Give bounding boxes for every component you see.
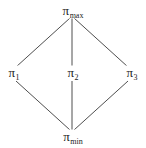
edge-max-p3 — [74, 18, 128, 67]
node-pi-min: πmin — [62, 130, 84, 145]
edge-p3-min — [74, 81, 128, 130]
node-subscript: max — [70, 11, 84, 20]
node-symbol: π — [67, 65, 74, 80]
node-subscript: min — [70, 137, 82, 146]
node-subscript: 1 — [16, 73, 20, 82]
edge-max-p1 — [16, 18, 70, 67]
node-symbol: π — [126, 65, 133, 80]
edge-p1-min — [16, 81, 70, 130]
node-symbol: π — [63, 3, 70, 18]
node-pi-max: πmax — [62, 4, 85, 19]
node-symbol: π — [8, 65, 15, 80]
node-symbol: π — [63, 129, 70, 144]
node-pi-1: π1 — [7, 66, 20, 81]
node-pi-2: π2 — [66, 66, 79, 81]
node-pi-3: π3 — [125, 66, 138, 81]
node-subscript: 2 — [75, 73, 79, 82]
node-subscript: 3 — [134, 73, 138, 82]
